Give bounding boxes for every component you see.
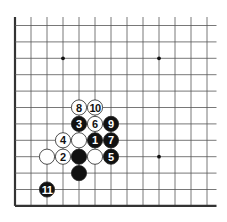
move-number-label: 6 <box>92 118 98 130</box>
move-number-label: 5 <box>108 151 114 163</box>
white-stone <box>87 149 102 164</box>
black-stone-1: 1 <box>87 133 102 148</box>
white-stone-6: 6 <box>87 116 102 131</box>
black-stone-11: 11 <box>39 182 54 197</box>
stone-icon <box>71 133 86 148</box>
stone-icon <box>87 149 102 164</box>
star-point-icon <box>157 56 161 60</box>
go-board: 1234567891011 <box>0 0 227 222</box>
black-stone-5: 5 <box>103 149 118 164</box>
star-point-icon <box>61 56 65 60</box>
stone-icon <box>71 149 86 164</box>
move-number-label: 11 <box>42 184 53 196</box>
stone-icon <box>39 149 54 164</box>
move-number-label: 10 <box>89 102 101 114</box>
star-point-icon <box>157 155 161 159</box>
white-stone <box>39 149 54 164</box>
black-stone-3: 3 <box>71 116 86 131</box>
move-number-label: 9 <box>108 118 114 130</box>
stone-icon <box>71 166 86 181</box>
grid-lines <box>15 17 217 206</box>
white-stone-4: 4 <box>55 133 70 148</box>
black-stone <box>71 149 86 164</box>
move-number-label: 3 <box>76 118 82 130</box>
move-number-label: 7 <box>108 134 114 146</box>
white-stone-10: 10 <box>87 100 102 115</box>
move-number-label: 1 <box>92 134 98 146</box>
black-stone <box>71 166 86 181</box>
white-stone <box>71 133 86 148</box>
black-stone-9: 9 <box>103 116 118 131</box>
move-number-label: 8 <box>76 102 82 114</box>
white-stone-8: 8 <box>71 100 86 115</box>
move-number-label: 2 <box>60 151 66 163</box>
move-number-label: 4 <box>60 134 67 146</box>
white-stone-2: 2 <box>55 149 70 164</box>
black-stone-7: 7 <box>103 133 118 148</box>
